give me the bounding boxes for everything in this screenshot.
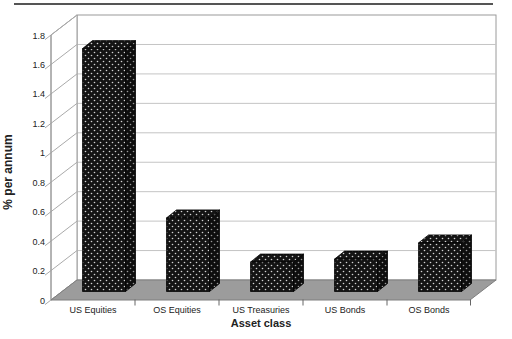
bar-front-face — [419, 243, 462, 292]
y-tick-label: 1 — [40, 148, 45, 158]
y-tick-label: 0.4 — [32, 237, 45, 247]
bar-us-equities — [83, 41, 136, 292]
category-label: US Treasuries — [232, 305, 290, 315]
category-label: OS Bonds — [408, 305, 450, 315]
y-tick-label: 1.6 — [32, 60, 45, 70]
y-tick-label: 1.8 — [32, 31, 45, 41]
bar-chart-3d: 00.20.40.60.811.21.41.61.8US EquitiesOS … — [0, 0, 512, 339]
y-tick-label: 0.8 — [32, 178, 45, 188]
y-tick-label: 0.6 — [32, 207, 45, 217]
y-tick-label: 1.2 — [32, 119, 45, 129]
bar-front-face — [335, 259, 378, 291]
side-wall — [51, 15, 77, 300]
bar-us-treasuries — [251, 254, 304, 291]
category-label: US Equities — [69, 305, 117, 315]
y-tick-label: 0 — [40, 296, 45, 306]
bar-top-face — [83, 41, 136, 49]
bar-side-shade — [462, 235, 472, 292]
bar-os-bonds — [419, 235, 472, 292]
bar-top-face — [419, 235, 472, 243]
chart-figure: 00.20.40.60.811.21.41.61.8US EquitiesOS … — [0, 0, 512, 339]
category-label: OS Equities — [153, 305, 201, 315]
bar-side-shade — [126, 41, 136, 292]
y-axis-title: % per annum — [1, 134, 15, 209]
bar-top-face — [251, 254, 304, 262]
y-tick-label: 0.2 — [32, 266, 45, 276]
bar-top-face — [335, 251, 388, 259]
bar-front-face — [83, 49, 126, 292]
bar-os-equities — [167, 210, 220, 292]
category-label: US Bonds — [325, 305, 366, 315]
bar-front-face — [251, 262, 294, 291]
bar-us-bonds — [335, 251, 388, 291]
y-tick-label: 1.4 — [32, 89, 45, 99]
bar-side-shade — [210, 210, 220, 292]
bar-top-face — [167, 210, 220, 218]
x-axis-title: Asset class — [231, 317, 292, 329]
bar-front-face — [167, 218, 210, 292]
